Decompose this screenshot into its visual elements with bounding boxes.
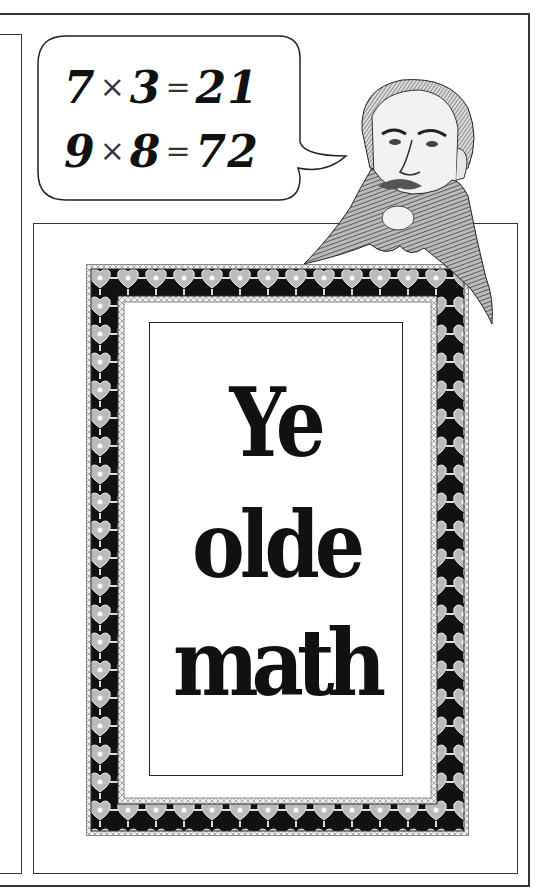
title-line-math: math	[165, 617, 387, 709]
operand-a: 9	[64, 126, 96, 177]
left-panel	[0, 34, 22, 874]
equation-line-1: 7×3=21	[64, 62, 259, 113]
times-sign: ×	[100, 133, 126, 168]
equals-sign: =	[165, 69, 191, 104]
operand-b: 8	[130, 126, 162, 177]
title-line-ye: Ye	[173, 375, 380, 471]
result: 21	[196, 62, 259, 113]
title-box: Ye olde math	[149, 322, 403, 776]
times-sign: ×	[100, 69, 126, 104]
operand-b: 3	[130, 62, 162, 113]
result: 72	[196, 126, 259, 177]
equals-sign: =	[165, 133, 191, 168]
title-line-olde: olde	[168, 499, 385, 591]
equation-line-2: 9×8=72	[64, 126, 259, 177]
operand-a: 7	[64, 62, 96, 113]
portrait-bearded-man	[300, 68, 500, 328]
bearded-man-icon	[300, 68, 500, 328]
